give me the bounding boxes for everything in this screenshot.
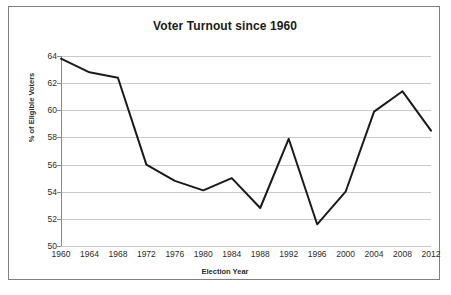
x-axis-tick-labels: 1960196419681972197619801984198819921996… — [61, 249, 431, 265]
data-line — [61, 59, 431, 225]
x-axis-tick-label: 1988 — [251, 249, 270, 259]
x-axis-tick-label: 1964 — [80, 249, 99, 259]
x-axis-title: Election Year — [9, 267, 441, 276]
x-axis-tick-label: 2008 — [393, 249, 412, 259]
y-axis-tick-labels: 5052545658606264 — [33, 56, 57, 246]
y-axis-tick-label: 56 — [48, 160, 57, 170]
series-line-voter-turnout — [61, 56, 431, 246]
x-axis-tick-label: 1984 — [222, 249, 241, 259]
x-axis-tick-label: 1976 — [165, 249, 184, 259]
x-axis-tick-label: 2004 — [365, 249, 384, 259]
y-axis-tick-label: 60 — [48, 105, 57, 115]
x-axis-tick-label: 1968 — [108, 249, 127, 259]
x-axis-tick-label: 1992 — [279, 249, 298, 259]
chart-title: Voter Turnout since 1960 — [9, 19, 441, 33]
y-axis-tick-label: 58 — [48, 132, 57, 142]
plot-area — [61, 56, 431, 246]
x-axis-tick-label: 2000 — [336, 249, 355, 259]
gridline — [61, 246, 431, 247]
y-axis-tick-label: 62 — [48, 78, 57, 88]
chart-frame: Voter Turnout since 1960 % of Eligible V… — [8, 6, 440, 280]
y-axis-tick-label: 52 — [48, 214, 57, 224]
y-axis-tick-label: 54 — [48, 187, 57, 197]
x-axis-tick-label: 1972 — [137, 249, 156, 259]
x-axis-tick-label: 1996 — [308, 249, 327, 259]
y-axis-tick-label: 64 — [48, 51, 57, 61]
x-axis-tick-label: 2012 — [422, 249, 441, 259]
x-axis-tick-label: 1980 — [194, 249, 213, 259]
y-axis-tick-mark — [57, 246, 61, 247]
x-axis-tick-label: 1960 — [52, 249, 71, 259]
